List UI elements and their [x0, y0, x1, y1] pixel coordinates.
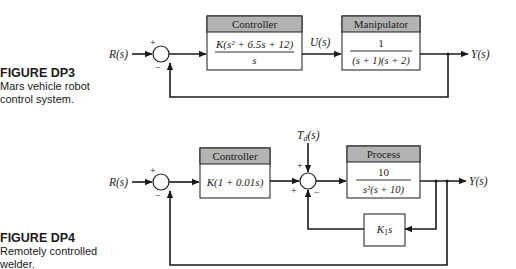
dp4-summing-junction-1	[153, 174, 169, 190]
dp4-output-label: Y(s)	[469, 175, 488, 188]
dp3-sum-plus-sign: +	[150, 37, 156, 48]
dp4-process-numerator: 10	[378, 166, 390, 178]
block-diagrams: Controller K(s² + 6.5s + 12) s Manipulat…	[0, 0, 516, 269]
dp3-input-label: R(s)	[108, 48, 128, 61]
dp4-sum1-minus-sign: −	[155, 190, 161, 201]
dp3-summing-junction	[153, 46, 169, 62]
dp3-manipulator-block: Manipulator 1 (s + 1)(s + 2)	[342, 16, 420, 70]
dp4-branch-point-1	[434, 179, 437, 182]
dp4-sum2-plus-top-sign: +	[297, 160, 303, 171]
dp3-manipulator-denominator: (s + 1)(s + 2)	[352, 55, 410, 67]
dp3-signal-u-label: U(s)	[310, 36, 331, 49]
dp4-sum2-minus-sign: −	[314, 187, 320, 198]
dp3-manipulator-title: Manipulator	[354, 18, 409, 30]
dp3-sum-minus-sign: −	[155, 62, 161, 73]
dp4-sum2-plus-left-sign: +	[291, 185, 297, 196]
dp4-k1s-block: K1s	[364, 214, 405, 246]
dp3-manipulator-numerator: 1	[378, 37, 384, 49]
dp4-controller-block: Controller K(1 + 0.01s)	[200, 148, 270, 198]
dp3-output-label: Y(s)	[471, 48, 490, 61]
dp4-input-label: R(s)	[108, 176, 128, 189]
dp3-controller-block: Controller K(s² + 6.5s + 12) s	[207, 16, 302, 70]
dp3-controller-denominator: s	[252, 54, 256, 66]
dp3-branch-point	[446, 52, 449, 55]
dp4-disturbance-label: Td(s)	[297, 129, 320, 143]
dp4-branch-point-2	[445, 179, 448, 182]
dp4-controller-expression: K(1 + 0.01s)	[206, 176, 264, 189]
dp4-process-block: Process 10 s²(s + 10)	[347, 146, 420, 198]
dp3-controller-numerator: K(s² + 6.5s + 12)	[215, 38, 293, 51]
dp4-controller-title: Controller	[212, 150, 258, 162]
dp4-k1s-expression: K1s	[376, 223, 393, 237]
dp3-controller-title: Controller	[232, 18, 278, 30]
dp4-sum1-plus-sign: +	[150, 165, 156, 176]
dp4-process-denominator: s²(s + 10)	[363, 184, 405, 196]
dp4-process-title: Process	[367, 148, 401, 160]
